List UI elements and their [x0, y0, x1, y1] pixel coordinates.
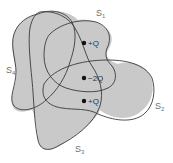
charge-label: +Q [88, 97, 99, 106]
charge-dot [82, 99, 86, 103]
gaussian-surfaces-diagram: S1 S4 S2 S3 +Q −2Q +Q [0, 0, 173, 163]
charge-dot [82, 76, 86, 80]
charge-label: −2Q [88, 74, 103, 83]
label-s1: S1 [96, 8, 106, 19]
label-s4: S4 [6, 65, 16, 76]
charge-dot [82, 41, 86, 45]
label-s2: S2 [155, 101, 165, 112]
charge-label: +Q [88, 39, 99, 48]
label-s3: S3 [75, 144, 85, 155]
filled-region [12, 11, 153, 150]
